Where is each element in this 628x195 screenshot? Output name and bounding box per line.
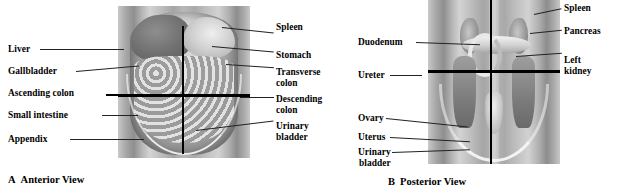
- label-stomach-text: Stomach: [276, 50, 311, 60]
- label-transverse-colon: Transverse colon: [276, 67, 321, 88]
- panel-b-vertical-midline: [490, 0, 492, 164]
- label-left-kidney-text: Left: [564, 55, 591, 66]
- label-descending-colon-text: Descending: [276, 94, 322, 105]
- label-descending-colon: Descending colon: [276, 94, 322, 115]
- leader-ascending-colon: [106, 94, 128, 96]
- label-ureter: Ureter: [358, 70, 385, 81]
- label-transverse-colon-text2: colon: [276, 78, 321, 89]
- panel-a-caption-letter: A: [8, 174, 16, 185]
- label-spleen-a: Spleen: [276, 22, 303, 33]
- label-spleen-b: Spleen: [564, 3, 591, 14]
- label-liver: Liver: [8, 44, 30, 55]
- panel-a-caption: AAnterior View: [8, 174, 84, 185]
- panel-b-horizontal-line: [428, 70, 560, 73]
- leader-liver: [40, 49, 124, 50]
- anatomy-figure: Liver Gallbladder Ascending colon Small …: [0, 0, 628, 195]
- label-gallbladder-text: Gallbladder: [8, 66, 57, 76]
- label-spleen-a-text: Spleen: [276, 22, 303, 32]
- label-ascending-colon: Ascending colon: [8, 88, 74, 99]
- label-duodenum: Duodenum: [358, 37, 403, 48]
- label-ascending-colon-text: Ascending colon: [8, 88, 74, 98]
- label-descending-colon-text2: colon: [276, 105, 322, 116]
- label-appendix-text: Appendix: [8, 134, 47, 144]
- panel-b-caption: BPosterior View: [388, 176, 466, 187]
- label-uterus-text: Uterus: [358, 132, 385, 142]
- label-small-intestine-text: Small intestine: [8, 110, 68, 120]
- leader-small-intestine: [102, 115, 138, 116]
- label-urinary-bladder-a-text: Urinary: [276, 121, 309, 132]
- label-ovary-text: Ovary: [358, 113, 384, 123]
- label-liver-text: Liver: [8, 44, 30, 54]
- label-spleen-b-text: Spleen: [564, 3, 591, 13]
- label-stomach: Stomach: [276, 50, 311, 61]
- label-uterus: Uterus: [358, 132, 385, 143]
- label-transverse-colon-text: Transverse: [276, 67, 321, 78]
- label-left-kidney-text2: kidney: [564, 66, 591, 77]
- label-gallbladder: Gallbladder: [8, 66, 57, 77]
- label-pancreas: Pancreas: [564, 26, 601, 37]
- panel-a-horizontal-line: [118, 94, 250, 97]
- leader-ureter: [390, 75, 422, 76]
- label-urinary-bladder-b: Urinary bladder: [358, 147, 391, 168]
- label-duodenum-text: Duodenum: [358, 37, 403, 47]
- label-urinary-bladder-a: Urinary bladder: [276, 121, 309, 142]
- label-urinary-bladder-a-text2: bladder: [276, 132, 309, 143]
- label-urinary-bladder-b-text2: bladder: [358, 158, 391, 169]
- leader-descending-colon: [240, 97, 274, 98]
- panel-a-vertical-midline: [182, 26, 184, 154]
- label-appendix: Appendix: [8, 134, 47, 145]
- panel-b-caption-title: Posterior View: [400, 176, 466, 187]
- label-small-intestine: Small intestine: [8, 110, 68, 121]
- label-ovary: Ovary: [358, 113, 384, 124]
- panel-a-caption-title: Anterior View: [21, 174, 85, 185]
- label-ureter-text: Ureter: [358, 70, 385, 80]
- label-left-kidney: Left kidney: [564, 55, 591, 76]
- label-urinary-bladder-b-text: Urinary: [358, 147, 391, 158]
- panel-b-caption-letter: B: [388, 176, 395, 187]
- label-pancreas-text: Pancreas: [564, 26, 601, 36]
- leader-appendix: [70, 139, 144, 140]
